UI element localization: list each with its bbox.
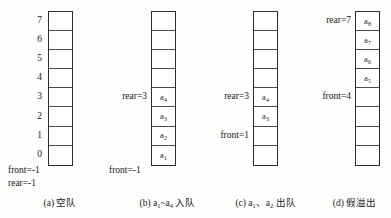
- queue-cell: a6: [356, 50, 379, 69]
- queue-cell: [254, 146, 277, 165]
- row-index-6: 6: [26, 30, 42, 49]
- front-pointer-label-d: front=4: [299, 87, 351, 106]
- queue-cell: [356, 88, 379, 107]
- queue-cell-value: a6: [364, 55, 371, 64]
- rear-pointer-label-a: rear=-1: [8, 178, 36, 188]
- front-pointer-label-b: front=-1: [109, 165, 141, 175]
- queue-cell: [49, 31, 72, 50]
- row-index-4: 4: [26, 68, 42, 87]
- queue-cell: [254, 12, 277, 31]
- queue-cell: [49, 127, 72, 146]
- queue-cell-value: a1: [160, 151, 167, 160]
- panel-caption-a: (a) 空队: [0, 195, 120, 209]
- queue-cell: [152, 12, 175, 31]
- panel-caption-d: (d) 假溢出: [318, 195, 391, 209]
- panel-caption-b: (b) a1~a4 入队: [110, 195, 225, 209]
- queue-cell: [152, 31, 175, 50]
- queue-cell: a5: [356, 69, 379, 88]
- row-index-1: 1: [26, 126, 42, 145]
- row-index-0: 0: [26, 145, 42, 164]
- queue-cell: [356, 107, 379, 126]
- queue-cell: a8: [356, 12, 379, 31]
- row-index-5: 5: [26, 49, 42, 68]
- rear-pointer-label-c: rear=3: [203, 87, 249, 106]
- queue-cell-value: a8: [364, 17, 371, 26]
- queue-cell: [356, 127, 379, 146]
- queue-cell: a1: [152, 146, 175, 165]
- queue-array-d: a8 a7 a6 a5: [355, 11, 380, 166]
- queue-cell-value: a3: [160, 112, 167, 121]
- queue-cell: a2: [152, 127, 175, 146]
- queue-array-a: [48, 11, 73, 166]
- queue-cell: [49, 107, 72, 126]
- row-index-2: 2: [26, 107, 42, 126]
- queue-cell: a7: [356, 31, 379, 50]
- queue-cell-value: a4: [160, 93, 167, 102]
- queue-cell: [254, 127, 277, 146]
- queue-cell-value: a3: [262, 112, 269, 121]
- queue-cell: [49, 88, 72, 107]
- queue-cell: a4: [152, 88, 175, 107]
- queue-cell: a4: [254, 88, 277, 107]
- queue-cell: [254, 50, 277, 69]
- rear-pointer-label-d: rear=7: [305, 11, 351, 30]
- queue-array-c: a4 a3: [253, 11, 278, 166]
- queue-cell: [356, 146, 379, 165]
- panel-caption-c: (c) a1、a2 出队: [213, 195, 318, 209]
- queue-cell-value: a4: [262, 93, 269, 102]
- queue-cell-value: a7: [364, 36, 371, 45]
- queue-cell: [152, 69, 175, 88]
- rear-pointer-label-b: rear=3: [101, 87, 147, 106]
- queue-cell: [49, 69, 72, 88]
- queue-cell-value: a2: [160, 131, 167, 140]
- queue-cell: a3: [152, 107, 175, 126]
- front-pointer-label-a: front=-1: [8, 165, 40, 175]
- queue-cell: [49, 12, 72, 31]
- queue-cell: [49, 50, 72, 69]
- queue-cell: [152, 50, 175, 69]
- queue-array-b: a4 a3 a2 a1: [151, 11, 176, 166]
- queue-cell: [49, 146, 72, 165]
- queue-cell: [254, 69, 277, 88]
- queue-cell: [254, 31, 277, 50]
- queue-cell-value: a5: [364, 74, 371, 83]
- front-pointer-label-c: front=1: [197, 126, 249, 145]
- queue-cell: a3: [254, 107, 277, 126]
- row-index-7: 7: [26, 11, 42, 30]
- row-index-3: 3: [26, 87, 42, 106]
